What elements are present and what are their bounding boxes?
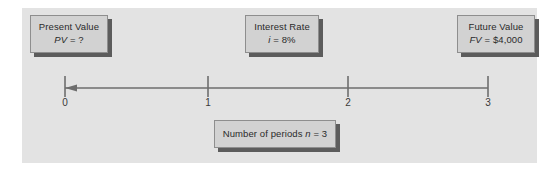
future-value-label: Future Value: [469, 21, 524, 34]
number-of-periods-label: Number of periods: [223, 128, 306, 139]
future-value-equals: =: [482, 34, 493, 45]
present-value-box: Present Value PV = ?: [30, 15, 108, 53]
interest-rate-expression: i = 8%: [268, 34, 295, 47]
future-value-amount: $4,000: [493, 34, 523, 45]
future-value-expression: FV = $4,000: [469, 34, 522, 47]
interest-rate-amount: 8%: [282, 34, 296, 45]
present-value-equals: =: [67, 34, 78, 45]
present-value-expression: PV = ?: [54, 34, 83, 47]
number-of-periods-equals: =: [311, 128, 322, 139]
interest-rate-equals: =: [271, 34, 282, 45]
tick-label-3: 3: [481, 97, 495, 108]
number-of-periods-expression: Number of periods n = 3: [223, 128, 328, 141]
present-value-label: Present Value: [39, 21, 99, 34]
future-value-symbol: FV: [469, 34, 481, 45]
interest-rate-label: Interest Rate: [254, 21, 310, 34]
timeline-diagram: Present Value PV = ? Interest Rate i = 8…: [0, 0, 548, 172]
tick-label-1: 1: [201, 97, 215, 108]
interest-rate-box: Interest Rate i = 8%: [245, 15, 319, 53]
future-value-box: Future Value FV = $4,000: [457, 15, 535, 53]
tick-label-0: 0: [58, 97, 72, 108]
tick-label-2: 2: [341, 97, 355, 108]
present-value-symbol: PV: [54, 34, 67, 45]
number-of-periods-box: Number of periods n = 3: [214, 120, 336, 148]
present-value-amount: ?: [78, 34, 83, 45]
number-of-periods-value: 3: [322, 128, 327, 139]
